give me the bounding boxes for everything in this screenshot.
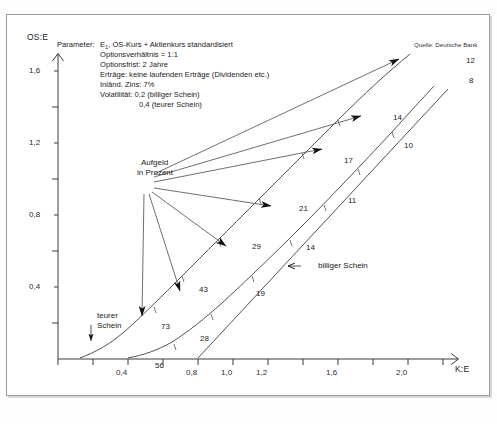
y-tick-label-0-4: 0,4: [29, 282, 40, 292]
y-tick-label-1-6: 1,6: [29, 66, 40, 76]
y-tick-label-0-8: 0,8: [29, 210, 40, 220]
y-tick-label-1-2: 1,2: [29, 138, 40, 148]
parameter-line-3: Optionsfrist: 2 Jahre: [100, 60, 168, 70]
curve-label-14-upper: 14: [393, 113, 402, 123]
curve-label-43: 43: [199, 285, 208, 295]
x-tick-label-0-4: 0,4: [116, 368, 127, 378]
curve-label-73: 73: [161, 322, 170, 332]
parameter-line-1-text: E1, OS-Kurs + Aktienkurs standardisiert: [100, 40, 233, 49]
x-axis-ticks: [58, 359, 443, 365]
x-tick-label-0-8: 0,8: [186, 368, 197, 378]
curve-innerer-wert: [198, 89, 448, 358]
aufgeld-callout-line2: in Prozent: [137, 168, 173, 178]
x-tick-label-2-0: 2,0: [396, 368, 407, 378]
parameter-line-7: 0,4 (teurer Schein): [139, 100, 202, 110]
curve-label-8: 8: [469, 76, 473, 86]
teurer-schein-callout-line2: Schein: [97, 321, 121, 331]
x-axis: [58, 354, 459, 365]
parameter-line-6: Volatilität: 0,2 (billiger Schein): [100, 90, 200, 100]
curve-label-17: 17: [344, 156, 353, 166]
curve-label-11: 11: [348, 196, 356, 206]
curve-label-19: 19: [256, 289, 265, 299]
curve-label-10: 10: [404, 141, 413, 151]
x-axis-title: K:E: [455, 364, 469, 374]
curve-label-56: 56: [155, 361, 164, 371]
curve-billiger-schein: [128, 86, 434, 358]
source-note: Quelle: Deutsche Bank: [414, 41, 477, 49]
y-axis-title: OS:E: [27, 32, 48, 42]
y-axis: [53, 54, 64, 360]
curve-point-ticks: [154, 120, 394, 350]
curve-label-29: 29: [252, 242, 261, 252]
aufgeld-callout-line1: Aufgeld: [141, 158, 168, 168]
parameter-line-4: Erträge: keine laufenden Erträge (Divide…: [100, 70, 269, 80]
parameter-heading: Parameter:: [57, 40, 95, 50]
parameter-line-2: Optionsverhältnis = 1:1: [100, 50, 178, 60]
x-tick-label-1-2: 1,2: [256, 368, 267, 378]
curve-label-14-lower: 14: [306, 243, 315, 253]
chart-page: OS:E K:E 1,6 1,2 0,8 0,4 0,4 0,8 1,0 1,2…: [0, 0, 497, 424]
billiger-schein-callout: billiger Schein: [318, 261, 368, 271]
curve-label-28: 28: [200, 334, 209, 344]
figure-caption: [6, 402, 490, 422]
parameter-line-1: E1, OS-Kurs + Aktienkurs standardisiert: [100, 40, 233, 50]
curve-label-21: 21: [299, 204, 308, 214]
parameter-line-5: Inländ. Zins: 7%: [100, 80, 154, 90]
x-tick-label-1-0: 1,0: [221, 368, 232, 378]
x-tick-label-1-6: 1,6: [326, 368, 337, 378]
teurer-schein-callout-line1: teurer: [97, 311, 118, 321]
y-axis-ticks: [52, 71, 58, 323]
curve-label-12: 12: [466, 56, 475, 66]
